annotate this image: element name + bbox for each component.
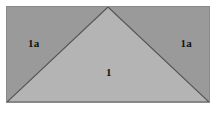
region-label-right: 1a xyxy=(181,38,192,49)
inscribed-triangle-shape xyxy=(7,7,209,102)
figure-canvas: 1a 1a 1 xyxy=(0,0,218,118)
region-label-triangle: 1 xyxy=(106,67,112,78)
figure-caption xyxy=(7,107,207,116)
region-label-left: 1a xyxy=(28,38,39,49)
triangle-polygon xyxy=(7,7,209,102)
outer-rectangle: 1a 1a 1 xyxy=(6,6,210,103)
